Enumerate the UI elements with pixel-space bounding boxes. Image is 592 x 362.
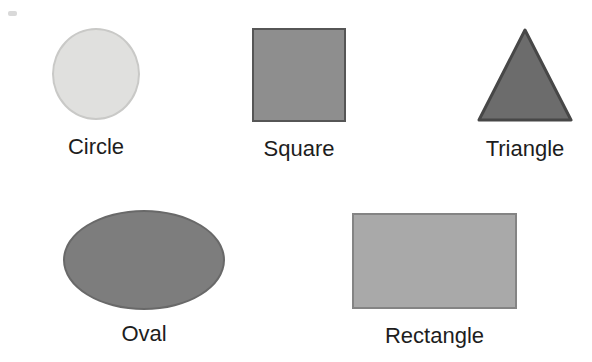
scan-artifact [8, 11, 17, 16]
triangle-shape [477, 26, 573, 124]
circle-label: Circle [68, 136, 124, 158]
shape-group-circle: Circle [48, 28, 144, 158]
shape-group-oval: Oval [63, 210, 225, 345]
shapes-worksheet: Circle Square Triangle Oval Rectangle [0, 0, 592, 362]
square-label: Square [264, 138, 335, 160]
shape-group-triangle: Triangle [477, 26, 573, 160]
rectangle-label: Rectangle [385, 325, 484, 347]
rectangle-shape [352, 213, 517, 309]
triangle-polygon [479, 30, 571, 120]
square-shape [252, 28, 346, 122]
triangle-label: Triangle [486, 138, 565, 160]
oval-label: Oval [121, 323, 166, 345]
shape-group-square: Square [252, 28, 346, 160]
oval-shape [63, 210, 225, 310]
shape-group-rectangle: Rectangle [352, 213, 517, 347]
circle-shape [52, 28, 140, 120]
